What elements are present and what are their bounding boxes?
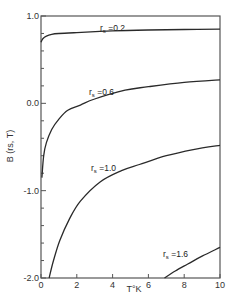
series-label: rs =1.0 [91,163,116,174]
y-tick-label: 1.0 [26,11,39,21]
curve-0-2 [41,29,220,42]
series-label: rs =0.2 [100,23,125,34]
y-tick-label: -1.0 [23,186,39,196]
chart: 1.00.0-1.0-2.0 0246810 rs =0.2rs =0.6rs … [0,0,235,307]
curve-0-6 [42,80,220,178]
x-tick-label: 4 [110,280,115,290]
plot-frame [41,16,220,278]
y-axis-ticks: 1.00.0-1.0-2.0 [23,11,46,283]
series-label: rs =1.6 [163,249,188,260]
series-labels: rs =0.2rs =0.6rs =1.0rs =1.6 [89,23,188,260]
x-tick-label: 10 [215,280,225,290]
y-tick-label: 0.0 [26,98,39,108]
y-axis-title: B (rs, T) [5,130,15,162]
x-tick-label: 2 [74,280,79,290]
curve-1-0 [49,145,220,278]
data-curves [41,29,220,278]
y-tick-label: -2.0 [23,273,39,283]
x-tick-label: 0 [38,280,43,290]
series-label: rs =0.6 [89,87,114,98]
x-axis-title: T°K [126,284,141,294]
plot-border [41,16,220,278]
x-tick-label: 8 [182,280,187,290]
x-tick-label: 6 [146,280,151,290]
